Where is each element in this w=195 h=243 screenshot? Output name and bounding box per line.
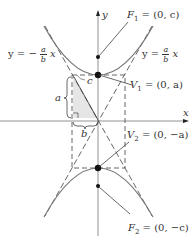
hyperbola-diagram [0,0,195,243]
hyperbola-lower-branch [44,168,153,217]
side-b-label: b [81,129,87,139]
focus-f2-label: F2 = (0, −c) [128,223,189,236]
hyperbola-upper-branch [44,26,153,75]
brace-a [64,77,71,118]
leader-f1 [99,22,128,56]
leader-v1 [99,75,132,85]
vertex-v1-label: V1 = (0, a) [130,80,183,93]
focus-f1-label: F1 = (0, c) [127,10,179,23]
side-a-label: a [55,93,61,103]
asymptote-right-label: y = ab x [142,45,178,64]
side-c-label: c [87,76,93,86]
y-axis-label: y [102,10,108,20]
leader-f2 [99,187,130,214]
x-axis-arrow-icon [183,119,189,123]
asymptote-left-label: y = − ab x [8,45,56,64]
vertex-v2-label: V2 = (0, −a) [127,130,188,143]
y-axis-arrow-icon [96,10,100,16]
x-axis-label: x [183,108,189,118]
brace-c [77,75,85,80]
leader-v2 [99,142,129,167]
